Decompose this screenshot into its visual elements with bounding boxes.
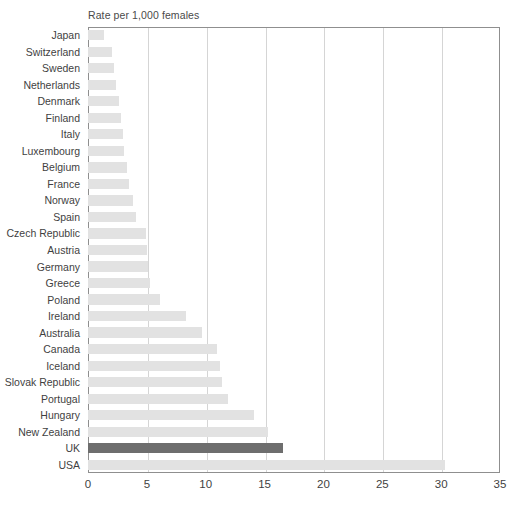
category-label-japan: Japan bbox=[51, 29, 80, 41]
bar-hungary bbox=[88, 410, 254, 420]
category-label-australia: Australia bbox=[39, 327, 80, 339]
category-label-uk: UK bbox=[65, 442, 80, 454]
bar-row bbox=[88, 261, 500, 271]
category-label-poland: Poland bbox=[47, 294, 80, 306]
category-label-switzerland: Switzerland bbox=[26, 46, 80, 58]
bar-uk bbox=[88, 443, 283, 453]
category-label-spain: Spain bbox=[53, 211, 80, 223]
bar-row bbox=[88, 311, 500, 321]
category-label-iceland: Iceland bbox=[46, 360, 80, 372]
bar-netherlands bbox=[88, 80, 116, 90]
bar-czech-republic bbox=[88, 228, 146, 238]
bar-row bbox=[88, 294, 500, 304]
x-tick-label: 5 bbox=[144, 478, 150, 490]
bar-row bbox=[88, 443, 500, 453]
x-tick-label: 0 bbox=[85, 478, 91, 490]
category-label-italy: Italy bbox=[61, 128, 80, 140]
bar-austria bbox=[88, 245, 147, 255]
category-axis-labels: JapanSwitzerlandSwedenNetherlandsDenmark… bbox=[0, 27, 84, 473]
bar-usa bbox=[88, 460, 445, 470]
x-tick-label: 25 bbox=[376, 478, 389, 490]
bar-row bbox=[88, 377, 500, 387]
bar-row bbox=[88, 460, 500, 470]
category-label-new-zealand: New Zealand bbox=[18, 426, 80, 438]
bar-row bbox=[88, 80, 500, 90]
bar-portugal bbox=[88, 394, 228, 404]
bar-row bbox=[88, 278, 500, 288]
category-label-austria: Austria bbox=[47, 244, 80, 256]
bar-italy bbox=[88, 129, 123, 139]
bar-row bbox=[88, 162, 500, 172]
category-label-usa: USA bbox=[58, 459, 80, 471]
bar-row bbox=[88, 63, 500, 73]
category-label-germany: Germany bbox=[37, 261, 80, 273]
bar-row bbox=[88, 344, 500, 354]
x-axis-tick-labels: 05101520253035 bbox=[88, 478, 500, 498]
bar-row bbox=[88, 47, 500, 57]
bar-denmark bbox=[88, 96, 119, 106]
bar-spain bbox=[88, 212, 136, 222]
bars-layer bbox=[88, 27, 500, 473]
category-label-belgium: Belgium bbox=[42, 161, 80, 173]
bar-row bbox=[88, 361, 500, 371]
x-tick-label: 20 bbox=[317, 478, 330, 490]
bar-chart: Rate per 1,000 females JapanSwitzerlandS… bbox=[0, 0, 515, 514]
bar-germany bbox=[88, 261, 148, 271]
bar-belgium bbox=[88, 162, 127, 172]
category-label-hungary: Hungary bbox=[40, 409, 80, 421]
bar-norway bbox=[88, 195, 133, 205]
bar-row bbox=[88, 228, 500, 238]
bar-iceland bbox=[88, 361, 220, 371]
category-label-greece: Greece bbox=[46, 277, 80, 289]
bar-france bbox=[88, 179, 129, 189]
bar-greece bbox=[88, 278, 150, 288]
x-tick-label: 15 bbox=[258, 478, 271, 490]
category-label-denmark: Denmark bbox=[37, 95, 80, 107]
category-label-norway: Norway bbox=[44, 194, 80, 206]
bar-switzerland bbox=[88, 47, 112, 57]
bar-finland bbox=[88, 113, 121, 123]
bar-row bbox=[88, 195, 500, 205]
bar-row bbox=[88, 146, 500, 156]
bar-row bbox=[88, 394, 500, 404]
bar-row bbox=[88, 327, 500, 337]
bar-row bbox=[88, 410, 500, 420]
category-label-netherlands: Netherlands bbox=[23, 79, 80, 91]
bar-australia bbox=[88, 327, 202, 337]
bar-row bbox=[88, 212, 500, 222]
bar-japan bbox=[88, 30, 104, 40]
bar-slovak-republic bbox=[88, 377, 222, 387]
x-tick-label: 35 bbox=[494, 478, 507, 490]
bar-row bbox=[88, 245, 500, 255]
bar-row bbox=[88, 30, 500, 40]
bar-row bbox=[88, 427, 500, 437]
bar-canada bbox=[88, 344, 217, 354]
category-label-portugal: Portugal bbox=[41, 393, 80, 405]
bar-row bbox=[88, 96, 500, 106]
category-label-czech-republic: Czech Republic bbox=[6, 227, 80, 239]
bar-poland bbox=[88, 294, 160, 304]
bar-row bbox=[88, 129, 500, 139]
bar-luxembourg bbox=[88, 146, 124, 156]
category-label-luxembourg: Luxembourg bbox=[22, 145, 80, 157]
x-tick-label: 30 bbox=[435, 478, 448, 490]
bar-new-zealand bbox=[88, 427, 268, 437]
x-tick-label: 10 bbox=[199, 478, 212, 490]
bar-row bbox=[88, 113, 500, 123]
bar-ireland bbox=[88, 311, 186, 321]
category-label-france: France bbox=[47, 178, 80, 190]
chart-title: Rate per 1,000 females bbox=[88, 9, 199, 21]
category-label-sweden: Sweden bbox=[42, 62, 80, 74]
category-label-ireland: Ireland bbox=[48, 310, 80, 322]
category-label-slovak-republic: Slovak Republic bbox=[5, 376, 80, 388]
category-label-finland: Finland bbox=[46, 112, 80, 124]
category-label-canada: Canada bbox=[43, 343, 80, 355]
bar-row bbox=[88, 179, 500, 189]
bar-sweden bbox=[88, 63, 114, 73]
